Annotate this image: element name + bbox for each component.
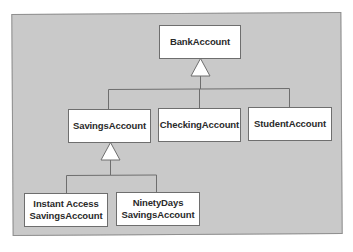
class-box-bankaccount: BankAccount [159, 25, 241, 59]
class-box-studentaccount: StudentAccount [248, 107, 332, 141]
class-label-ninetydays-line2: SavingsAccount [121, 209, 194, 221]
class-label-instant-access-line1: Instant Access [33, 198, 98, 210]
class-label-checkingaccount: CheckingAccount [160, 119, 239, 131]
class-label-studentaccount: StudentAccount [254, 118, 326, 130]
class-label-instant-access-line2: SavingsAccount [29, 210, 102, 222]
class-box-checkingaccount: CheckingAccount [158, 108, 241, 142]
class-box-ninetydays-savingsaccount: NinetyDays SavingsAccount [116, 192, 200, 226]
class-label-bankaccount: BankAccount [170, 36, 230, 48]
class-box-savingsaccount: SavingsAccount [68, 109, 151, 143]
class-box-instant-access-savingsaccount: Instant Access SavingsAccount [24, 193, 108, 227]
class-label-savingsaccount: SavingsAccount [73, 120, 146, 132]
class-label-ninetydays-line1: NinetyDays [133, 197, 184, 209]
